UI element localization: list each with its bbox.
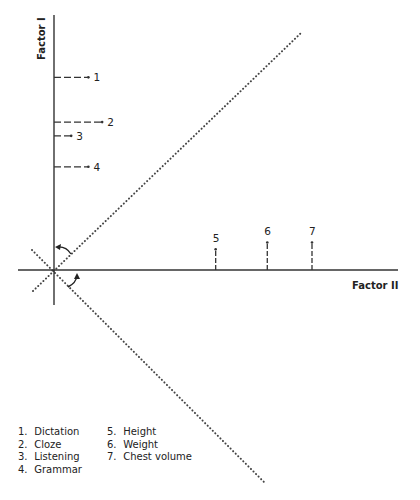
legend-item: 2. Cloze <box>18 439 82 452</box>
arrowhead-icon <box>74 273 80 279</box>
item-label-2: 2 <box>107 116 114 128</box>
legend-item: 1. Dictation <box>18 426 82 439</box>
factor-ii-label: Factor II <box>352 280 398 291</box>
legend-item: 7. Chest volume <box>107 451 192 464</box>
item-label-6: 6 <box>264 225 271 237</box>
item-label-4: 4 <box>93 161 100 173</box>
loading-point-2 <box>101 121 104 124</box>
loading-point-6 <box>266 241 269 244</box>
loading-point-4 <box>87 166 90 169</box>
legend-right: 5. Height 6. Weight 7. Chest volume <box>107 426 192 464</box>
rotated-axis-positive <box>33 33 301 291</box>
loading-point-7 <box>311 241 314 244</box>
item-label-1: 1 <box>93 71 100 83</box>
loading-point-1 <box>87 76 90 79</box>
legend-item: 6. Weight <box>107 439 192 452</box>
arrowhead-icon <box>55 244 61 250</box>
loading-point-5 <box>214 248 217 251</box>
loading-point-3 <box>70 135 73 138</box>
item-label-3: 3 <box>76 130 83 142</box>
factor-i-label: Factor I <box>36 17 47 60</box>
item-label-7: 7 <box>309 225 316 237</box>
factor-diagram: Factor I Factor II 1234567 <box>0 0 420 500</box>
legend-left: 1. Dictation 2. Cloze 3. Listening 4. Gr… <box>18 426 82 476</box>
legend-item: 3. Listening <box>18 451 82 464</box>
legend-item: 5. Height <box>107 426 192 439</box>
legend-item: 4. Grammar <box>18 464 82 477</box>
item-label-5: 5 <box>213 232 220 244</box>
